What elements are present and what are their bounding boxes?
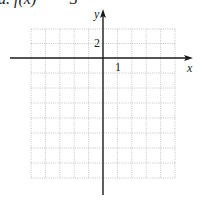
- y-tick-label: 2: [94, 37, 100, 49]
- y-axis-label: y: [94, 8, 99, 20]
- axes: [10, 9, 193, 195]
- x-tick-label: 1: [115, 61, 121, 73]
- coordinate-grid: [0, 0, 203, 205]
- x-axis-label: x: [187, 62, 192, 74]
